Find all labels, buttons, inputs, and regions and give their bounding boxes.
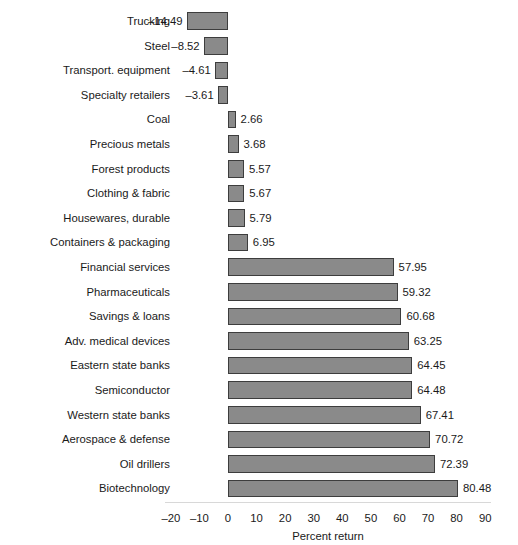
bar [204, 37, 228, 55]
bar-row: Eastern state banks64.45 [0, 353, 518, 378]
bar [228, 209, 245, 227]
bar-row: Oil drillers72.39 [0, 452, 518, 477]
bar-value-label: 70.72 [435, 427, 463, 452]
x-tick-label: 90 [465, 511, 505, 525]
bar [228, 406, 421, 424]
bar-row: Housewares, durable5.79 [0, 206, 518, 231]
bar-row: Pharmaceuticals59.32 [0, 280, 518, 305]
bar-value-label: –4.61 [0, 58, 211, 83]
bar-value-label: 2.66 [241, 107, 263, 132]
bar [215, 62, 228, 80]
bar-value-label: 72.39 [440, 452, 468, 477]
bar [228, 381, 412, 399]
bar-value-label: –8.52 [0, 34, 200, 59]
bar-value-label: 5.79 [250, 206, 272, 231]
bar-value-label: –14.49 [0, 9, 183, 34]
category-label: Financial services [0, 255, 170, 280]
bar-value-label: 64.45 [417, 353, 445, 378]
category-label: Semiconductor [0, 378, 170, 403]
bar-row: Containers & packaging6.95 [0, 230, 518, 255]
bar-row: Precious metals3.68 [0, 132, 518, 157]
bar [228, 332, 409, 350]
category-label: Clothing & fabric [0, 181, 170, 206]
bar-value-label: 63.25 [414, 329, 442, 354]
category-label: Biotechnology [0, 476, 170, 501]
category-label: Eastern state banks [0, 353, 170, 378]
bar [218, 86, 228, 104]
category-label: Aerospace & defense [0, 427, 170, 452]
bar-row: Forest products5.57 [0, 157, 518, 182]
bar [228, 308, 401, 326]
bar-row: Clothing & fabric5.67 [0, 181, 518, 206]
bar-value-label: 60.68 [406, 304, 434, 329]
bar [228, 357, 412, 375]
bar-row: Biotechnology80.48 [0, 476, 518, 501]
bar-row: Adv. medical devices63.25 [0, 329, 518, 354]
bar-row: Aerospace & defense70.72 [0, 427, 518, 452]
category-label: Oil drillers [0, 452, 170, 477]
bar-row: Coal2.66 [0, 107, 518, 132]
bar-value-label: 80.48 [463, 476, 491, 501]
bar [228, 160, 244, 178]
bar [228, 111, 236, 129]
bar-value-label: 3.68 [244, 132, 266, 157]
bar-value-label: 59.32 [403, 280, 431, 305]
category-label: Adv. medical devices [0, 329, 170, 354]
bar [228, 480, 458, 498]
bar-value-label: 5.57 [249, 157, 271, 182]
category-label: Precious metals [0, 132, 170, 157]
bar-row: Western state banks67.41 [0, 403, 518, 428]
bar [228, 135, 239, 153]
bar-row: Specialty retailers–3.61 [0, 83, 518, 108]
bar [228, 431, 430, 449]
category-label: Forest products [0, 157, 170, 182]
bar-row: Savings & loans60.68 [0, 304, 518, 329]
bar-row: Semiconductor64.48 [0, 378, 518, 403]
percent-return-bar-chart: Trucking–14.49Steel–8.52Transport. equip… [0, 0, 518, 545]
bar [228, 234, 248, 252]
bar-row: Transport. equipment–4.61 [0, 58, 518, 83]
bar-row: Trucking–14.49 [0, 9, 518, 34]
category-label: Savings & loans [0, 304, 170, 329]
bar [228, 185, 244, 203]
bar-value-label: 6.95 [253, 230, 275, 255]
plot-area: Trucking–14.49Steel–8.52Transport. equip… [0, 0, 518, 545]
category-label: Housewares, durable [0, 206, 170, 231]
bar-value-label: 5.67 [249, 181, 271, 206]
category-label: Western state banks [0, 403, 170, 428]
bar [228, 283, 398, 301]
bar-row: Steel–8.52 [0, 34, 518, 59]
bar-value-label: 64.48 [417, 378, 445, 403]
bar [187, 12, 228, 30]
bar [228, 258, 394, 276]
bar-value-label: 67.41 [426, 403, 454, 428]
x-axis-line [165, 502, 491, 503]
category-label: Pharmaceuticals [0, 280, 170, 305]
bar-value-label: –3.61 [0, 83, 214, 108]
bar-row: Financial services57.95 [0, 255, 518, 280]
bar-value-label: 57.95 [399, 255, 427, 280]
bar [228, 455, 435, 473]
x-axis-title: Percent return [248, 529, 408, 543]
category-label: Containers & packaging [0, 230, 170, 255]
category-label: Coal [0, 107, 170, 132]
